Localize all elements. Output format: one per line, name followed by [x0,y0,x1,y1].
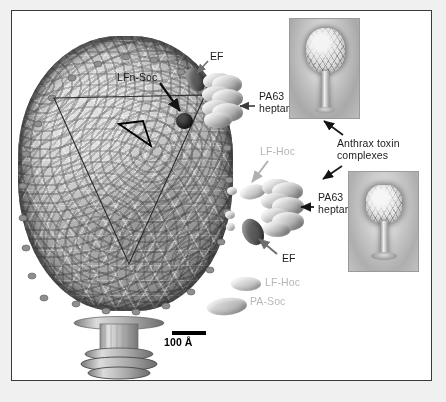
inset-phage-head [366,185,402,223]
lfn-soc-molecule [176,113,193,129]
figure-frame: 100 Å EF LFn-Soc PA63 heptamer LF-Hoc PA… [11,10,432,381]
label-lf-hoc-low: LF-Hoc [265,276,300,288]
label-pa-soc: PA-Soc [250,295,285,307]
em-inset-top [289,18,360,119]
inset-phage-baseplate [315,107,335,113]
pa63-heptamer-mid [260,179,306,237]
hoc-anchor-nub [227,187,237,195]
inset-phage-tail [380,221,388,255]
pa63-subunit [204,112,232,128]
label-anthrax-toxin-complexes: Anthrax toxin complexes [337,137,400,161]
figure-root: 100 Å EF LFn-Soc PA63 heptamer LF-Hoc PA… [0,0,446,402]
soc-anchor-nub [226,223,235,231]
label-ef-mid: EF [282,252,296,264]
scale-bar-label: 100 Å [164,336,193,348]
phage-tail [59,311,179,381]
scale-bar [172,331,206,335]
inset-phage-tail [321,71,329,109]
soc-anchor-nub [225,211,235,219]
lf-hoc-molecule-low [231,277,261,291]
em-inset-bottom [348,171,419,272]
label-lfn-soc: LFn-Soc [117,71,157,83]
label-ef-top: EF [210,50,224,62]
inset-phage-baseplate [371,252,397,260]
pa63-subunit [263,221,291,237]
label-lf-hoc-mid: LF-Hoc [260,145,295,157]
pa63-heptamer-top [202,73,244,129]
inset-phage-head [306,28,345,73]
